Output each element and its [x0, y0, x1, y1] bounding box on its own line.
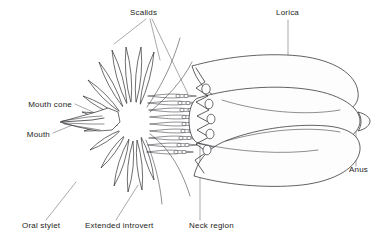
- label-anus: Anus: [349, 165, 368, 174]
- neck-spine-4: [203, 145, 211, 155]
- introvert-pore-2-0: [180, 108, 184, 111]
- label-lorica: Lorica: [276, 8, 299, 17]
- introvert-pore-6-0: [179, 136, 183, 139]
- introvert-pore-0-1: [184, 94, 188, 97]
- label-mouth: Mouth: [27, 130, 50, 139]
- lorica-layer: [189, 55, 370, 187]
- introvert-rosette-center: [117, 102, 149, 140]
- introvert-pore-4-0: [182, 122, 186, 125]
- neck-spine-2: [207, 114, 215, 124]
- introvert-pore-5-0: [181, 129, 185, 132]
- introvert-pore-1-1: [186, 101, 190, 104]
- label-neck-region: Neck region: [189, 221, 234, 230]
- introvert-pore-8-1: [182, 150, 186, 153]
- label-scalids: Scalids: [130, 8, 157, 17]
- introvert-pore-0-0: [176, 94, 180, 97]
- neck-spine-0: [202, 84, 210, 94]
- loriciferan-diagram: ScalidsLoricaMouth coneMouthAnusOral sty…: [0, 0, 385, 243]
- introvert-pore-1-0: [178, 101, 182, 104]
- label-oral-stylet: Oral stylet: [22, 221, 61, 230]
- diagram-canvas: ScalidsLoricaMouth coneMouthAnusOral sty…: [0, 0, 385, 243]
- neck-spine-1: [205, 99, 213, 109]
- introvert-pore-7-1: [185, 143, 189, 146]
- label-extended-introvert: Extended introvert: [85, 221, 154, 230]
- introvert-pore-3-0: [182, 115, 186, 118]
- introvert-pore-8-0: [174, 150, 178, 153]
- introvert-pore-6-1: [187, 136, 191, 139]
- label-mouth-cone: Mouth cone: [28, 100, 72, 109]
- introvert-pore-7-0: [177, 143, 181, 146]
- neck-spine-3: [206, 129, 214, 139]
